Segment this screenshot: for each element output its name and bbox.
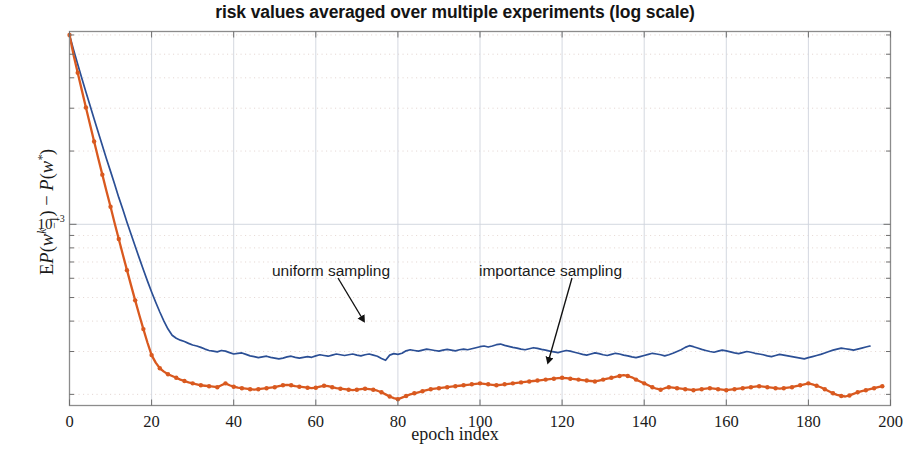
figure-container: risk values averaged over multiple exper… [0,0,910,451]
data-series-group [67,33,884,402]
x-axis-label: epoch index [0,424,910,445]
series-markers-importance-sampling [67,33,884,402]
annotation-importance-sampling: importance sampling [479,262,622,280]
major-gridlines [70,32,891,406]
annotation-arrows [338,278,572,359]
series-line-uniform-sampling [70,35,870,360]
annotation-uniform-sampling: uniform sampling [272,262,390,280]
arrow-uniform-sampling [338,278,362,318]
arrow-importance-sampling [549,278,572,359]
plot-area: 020406080100120140160180200 10-3 [0,0,910,451]
y-axis-label: EP(wk−1) − P(w*) [36,82,60,342]
